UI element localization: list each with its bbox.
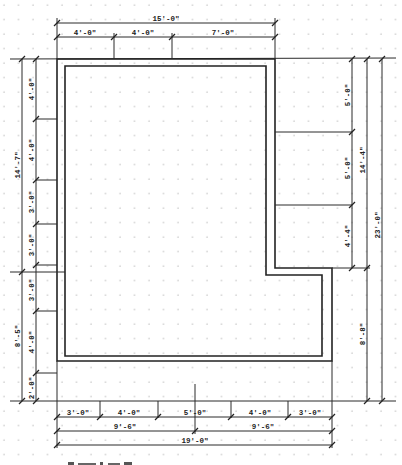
dim-right-lower-total: 8'-8" bbox=[359, 323, 367, 346]
dim-bottom-overall: 19'-0" bbox=[181, 437, 208, 445]
dim-left-seg-4: 3'-0" bbox=[28, 234, 36, 257]
dim-bottom-seg-3: 5'-0" bbox=[184, 409, 207, 417]
dim-right-seg-3: 4'-4" bbox=[344, 225, 352, 248]
dim-right-upper-total: 14'-4" bbox=[359, 146, 367, 173]
dim-right-seg-2: 5'-0" bbox=[344, 157, 352, 180]
dim-left-upper-total: 14'-7" bbox=[14, 151, 22, 178]
dot-grid bbox=[0, 0, 402, 465]
dim-left-seg-6: 4'-0" bbox=[28, 331, 36, 354]
dim-left-seg-5: 3'-0" bbox=[28, 279, 36, 302]
dim-left-seg-7: 2'-0" bbox=[28, 377, 36, 400]
dim-right-seg-1: 5'-0" bbox=[344, 84, 352, 107]
dim-bottom-seg-4: 4'-0" bbox=[249, 409, 272, 417]
dim-right-overall: 23'-0" bbox=[374, 211, 382, 238]
dim-top-overall: 15'-0" bbox=[152, 15, 179, 23]
dim-top-seg-1: 4'-0" bbox=[74, 29, 97, 37]
dim-bottom-seg-5: 3'-0" bbox=[299, 409, 322, 417]
dim-bottom-half-1: 9'-6" bbox=[114, 423, 137, 431]
dim-left-lower-total: 8'-5" bbox=[14, 325, 22, 348]
dim-left-seg-1: 4'-0" bbox=[28, 78, 36, 101]
dim-bottom-seg-1: 3'-0" bbox=[67, 409, 90, 417]
dim-left-seg-3: 3'-0" bbox=[28, 191, 36, 214]
dim-bottom-half-2: 9'-6" bbox=[252, 423, 275, 431]
dim-bottom-seg-2: 4'-0" bbox=[118, 409, 141, 417]
dim-top-seg-2: 4'-0" bbox=[132, 29, 155, 37]
dim-left-seg-2: 4'-0" bbox=[28, 139, 36, 162]
floor-plan-drawing: 15'-0" 4'-0" 4'-0" 7'-0" 14'-7" 8'-5" 4'… bbox=[0, 0, 402, 465]
dim-top-seg-3: 7'-0" bbox=[212, 29, 235, 37]
